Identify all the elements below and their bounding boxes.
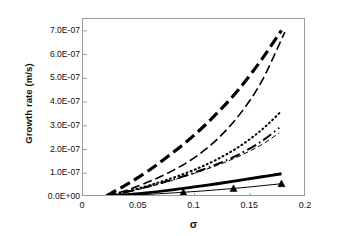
x-tick-label: 0.05 bbox=[118, 200, 158, 210]
x-axis-title: σ bbox=[82, 218, 305, 230]
x-tick-label: 0.1 bbox=[174, 200, 214, 210]
x-tick-label: 0 bbox=[62, 200, 102, 210]
x-tick-label: 0.15 bbox=[229, 200, 269, 210]
y-tick-label: 3.0E-07 bbox=[28, 120, 80, 130]
series-dotted bbox=[106, 111, 281, 196]
series-thick-solid bbox=[106, 174, 281, 196]
series-thick-long-dash bbox=[106, 30, 281, 195]
y-tick-label: 2.0E-07 bbox=[28, 144, 80, 154]
triangle-marker bbox=[278, 180, 285, 187]
x-axis-tick-labels: 00.050.10.150.2 bbox=[0, 200, 340, 216]
y-tick-label: 6.0E-07 bbox=[28, 49, 80, 59]
y-tick-label: 4.0E-07 bbox=[28, 96, 80, 106]
plot-svg bbox=[83, 19, 305, 196]
growth-rate-chart: Growth rate (m/s) 0.0E+001.0E-072.0E-073… bbox=[0, 0, 340, 236]
x-tick-label: 0.2 bbox=[285, 200, 325, 210]
series-thin-medium-dash bbox=[106, 32, 284, 196]
y-tick-label: 1.0E-07 bbox=[28, 167, 80, 177]
y-tick-label: 7.0E-07 bbox=[28, 25, 80, 35]
y-tick-label: 5.0E-07 bbox=[28, 72, 80, 82]
plot-area bbox=[82, 18, 305, 196]
